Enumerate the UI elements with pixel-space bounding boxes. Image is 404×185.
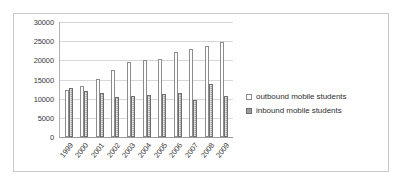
bar-inbound xyxy=(69,88,73,137)
x-axis-tick-label: 2002 xyxy=(105,141,122,159)
legend-swatch-outbound-icon xyxy=(246,94,252,100)
bar-group xyxy=(201,22,217,137)
x-axis-tick-label: 2004 xyxy=(136,141,153,159)
x-axis-tick-slot: 2006 xyxy=(169,140,185,172)
x-axis-tick-label: 2007 xyxy=(183,141,200,159)
bar-inbound xyxy=(131,96,135,137)
bar-group xyxy=(170,22,186,137)
y-axis-tick-label: 15000 xyxy=(34,75,54,84)
chart-legend: outbound mobile studentsinbound mobile s… xyxy=(246,92,386,120)
x-axis-tick-slot: 1999 xyxy=(60,140,76,172)
x-axis-tick-label: 2005 xyxy=(152,141,169,159)
x-axis-tick-label: 1999 xyxy=(58,141,75,159)
plot-area xyxy=(59,22,233,138)
y-axis-tick-label: 20000 xyxy=(34,56,54,65)
bar-inbound xyxy=(193,100,197,137)
x-axis-tick-slot: 2008 xyxy=(201,140,217,172)
x-axis-tick-slot: 2003 xyxy=(123,140,139,172)
y-axis-tick-label: 10000 xyxy=(34,94,54,103)
bar-group xyxy=(77,22,93,137)
bar-group xyxy=(139,22,155,137)
bar-inbound xyxy=(147,95,151,137)
bar-group xyxy=(92,22,108,137)
y-axis-tick-label: 25000 xyxy=(34,37,54,46)
legend-item-label: inbound mobile students xyxy=(256,106,342,115)
x-axis-tick-slot: 2005 xyxy=(154,140,170,172)
bar-group xyxy=(123,22,139,137)
bar-inbound xyxy=(100,93,104,137)
bar-group xyxy=(108,22,124,137)
x-axis-tick-slot: 2007 xyxy=(185,140,201,172)
x-axis-tick-label: 2000 xyxy=(73,141,90,159)
legend-swatch-inbound-icon xyxy=(246,108,252,114)
x-axis-tick-label: 2009 xyxy=(214,141,231,159)
bar-inbound xyxy=(209,84,213,137)
x-axis-tick-label: 2008 xyxy=(199,141,216,159)
bar-inbound xyxy=(224,96,228,137)
x-axis-tick-slot: 2000 xyxy=(76,140,92,172)
y-axis-tick-label: 5000 xyxy=(38,113,54,122)
x-axis-tick-label: 2001 xyxy=(89,141,106,159)
legend-item-label: outbound mobile students xyxy=(256,92,346,101)
x-axis: 1999200020012002200320042005200620072008… xyxy=(59,140,233,172)
chart-frame: 050001000015000200002500030000 199920002… xyxy=(13,13,389,172)
bar-groups xyxy=(60,22,233,137)
bar-inbound xyxy=(84,91,88,137)
legend-item[interactable]: outbound mobile students xyxy=(246,92,386,101)
x-axis-tick-slot: 2009 xyxy=(216,140,232,172)
bar-group xyxy=(216,22,232,137)
bar-inbound xyxy=(115,97,119,137)
bar-group xyxy=(154,22,170,137)
x-axis-tick-slot: 2001 xyxy=(91,140,107,172)
bar-group xyxy=(61,22,77,137)
y-axis-tick-label: 30000 xyxy=(34,18,54,27)
bar-inbound xyxy=(162,94,166,137)
y-axis-tick-label: 0 xyxy=(50,133,54,142)
x-axis-tick-slot: 2004 xyxy=(138,140,154,172)
x-axis-tick-label: 2006 xyxy=(167,141,184,159)
y-axis: 050001000015000200002500030000 xyxy=(14,14,57,146)
legend-item[interactable]: inbound mobile students xyxy=(246,106,386,115)
bar-inbound xyxy=(178,93,182,137)
x-axis-tick-label: 2003 xyxy=(120,141,137,159)
x-axis-tick-slot: 2002 xyxy=(107,140,123,172)
bar-group xyxy=(185,22,201,137)
